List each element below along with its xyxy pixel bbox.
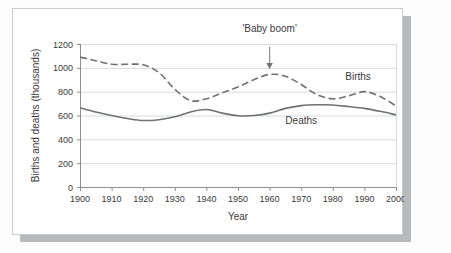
- x-tick-label: 1920: [133, 194, 153, 204]
- x-tick-label: 1960: [260, 194, 280, 204]
- screenshot-root: 'Baby boom'02004006008001000120019001910…: [0, 0, 451, 253]
- x-ticks: 1900191019201930194019501960197019801990…: [70, 187, 404, 204]
- x-tick-label: 1950: [228, 194, 248, 204]
- y-tick-label: 200: [58, 159, 73, 169]
- series-label-births: Births: [345, 71, 371, 82]
- y-tick-label: 0: [68, 183, 73, 193]
- chart-card: 'Baby boom'02004006008001000120019001910…: [12, 8, 403, 235]
- y-tick-label: 1000: [53, 63, 73, 73]
- births-deaths-line-chart: 'Baby boom'02004006008001000120019001910…: [13, 9, 404, 236]
- x-tick-label: 2000: [386, 194, 404, 204]
- x-tick-label: 1970: [291, 194, 311, 204]
- x-tick-label: 1940: [196, 194, 216, 204]
- x-tick-label: 1900: [70, 194, 90, 204]
- x-tick-label: 1990: [354, 194, 374, 204]
- y-axis-title: Births and deaths (thousands): [30, 49, 41, 182]
- annotation-label-baby-boom: 'Baby boom': [242, 23, 296, 34]
- chart-figure: 'Baby boom'02004006008001000120019001910…: [13, 9, 404, 236]
- y-tick-label: 1200: [53, 40, 73, 50]
- x-tick-label: 1910: [102, 194, 122, 204]
- y-tick-label: 600: [58, 111, 73, 121]
- x-axis-title: Year: [228, 211, 249, 222]
- y-tick-label: 400: [58, 135, 73, 145]
- x-tick-label: 1930: [165, 194, 185, 204]
- series-label-deaths: Deaths: [285, 115, 317, 126]
- y-tick-label: 800: [58, 87, 73, 97]
- x-tick-label: 1980: [323, 194, 343, 204]
- series-line-deaths: [80, 105, 396, 121]
